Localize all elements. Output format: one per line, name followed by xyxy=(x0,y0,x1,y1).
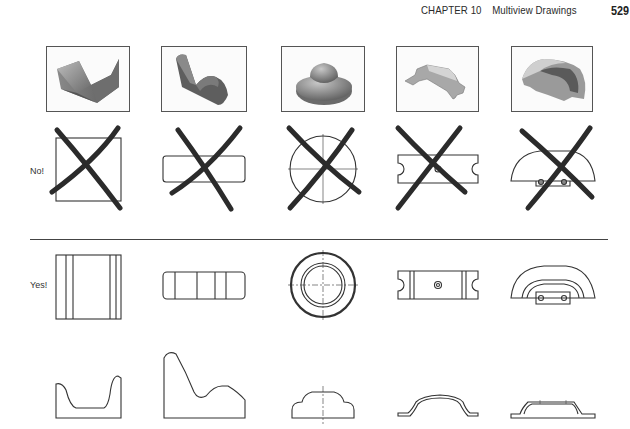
yes-label: Yes! xyxy=(30,280,47,290)
front-view-hood-cover xyxy=(511,266,595,304)
side-view-hood-cover xyxy=(511,400,595,418)
front-view-v-block xyxy=(56,255,121,319)
side-view-stepped-cap xyxy=(292,386,354,424)
section-divider xyxy=(30,239,608,240)
side-view-angled-block xyxy=(164,353,245,418)
cross-out-marks xyxy=(52,128,592,209)
front-view-stepped-cap xyxy=(288,250,358,320)
drawings-canvas xyxy=(0,0,630,429)
cross-out-icon xyxy=(528,128,590,208)
front-view-strap-bracket xyxy=(398,271,478,299)
front-view-angled-block xyxy=(163,272,245,299)
side-view-v-block xyxy=(56,376,121,418)
side-view-strap-bracket xyxy=(398,395,478,416)
